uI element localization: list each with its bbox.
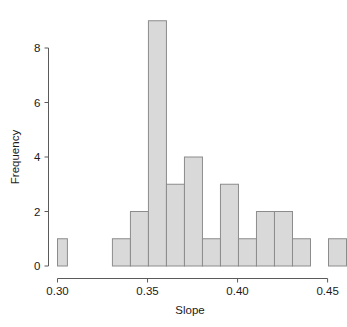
y-axis-tick-label: 0 <box>34 260 40 272</box>
histogram-figure: 02468 0.300.350.400.45 Slope Frequency <box>0 0 347 327</box>
histogram-bar <box>329 239 347 266</box>
histogram-bar <box>148 21 166 266</box>
histogram-plot: 02468 0.300.350.400.45 Slope Frequency <box>0 0 347 327</box>
histogram-bar <box>292 239 310 266</box>
histogram-bar <box>184 157 202 266</box>
histogram-bar <box>58 239 68 266</box>
histogram-bar <box>274 212 292 267</box>
y-axis-tick-label: 4 <box>34 151 41 163</box>
histogram-bars <box>58 21 347 266</box>
y-axis-title: Frequency <box>9 130 21 185</box>
y-axis-tick-label: 6 <box>34 97 40 109</box>
histogram-bar <box>238 239 256 266</box>
histogram-bar <box>130 212 148 267</box>
histogram-bar <box>166 184 184 266</box>
histogram-bar <box>202 239 220 266</box>
histogram-bar <box>220 184 238 266</box>
x-axis-tick-label: 0.40 <box>226 285 248 297</box>
x-axis: 0.300.350.400.45 <box>46 279 338 297</box>
histogram-bar <box>112 239 130 266</box>
histogram-bar <box>256 212 274 267</box>
x-axis-title: Slope <box>175 304 204 316</box>
x-axis-tick-label: 0.45 <box>316 285 338 297</box>
y-axis-tick-label: 2 <box>34 206 40 218</box>
x-axis-tick-label: 0.35 <box>136 285 158 297</box>
y-axis-tick-label: 8 <box>34 42 40 54</box>
y-axis: 02468 <box>34 42 48 272</box>
x-axis-tick-label: 0.30 <box>46 285 68 297</box>
